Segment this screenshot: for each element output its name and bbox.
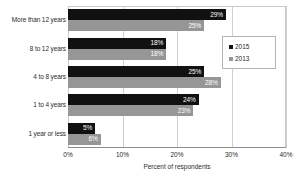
x-tick-label: 10% bbox=[116, 151, 129, 158]
x-axis-title: Percent of respondents bbox=[68, 163, 286, 170]
legend: 2015 2013 bbox=[222, 36, 276, 69]
legend-label-2015: 2015 bbox=[235, 44, 249, 51]
bar-value-label: 29% bbox=[210, 11, 223, 18]
x-axis-line bbox=[68, 147, 286, 148]
legend-item-2013[interactable]: 2013 bbox=[229, 53, 275, 65]
x-tick-label: 30% bbox=[225, 151, 238, 158]
bar-2013-2[interactable]: 18% bbox=[68, 49, 166, 60]
legend-label-2013: 2013 bbox=[235, 56, 249, 63]
category-label: 8 to 12 years bbox=[2, 45, 66, 52]
x-tick-label: 40% bbox=[279, 151, 292, 158]
category-label: More than 12 years bbox=[2, 16, 66, 23]
legend-swatch-icon-2015 bbox=[229, 45, 233, 49]
bar-value-label: 25% bbox=[189, 68, 202, 75]
category-label: 1 to 4 years bbox=[2, 101, 66, 108]
bar-2013-3[interactable]: 28% bbox=[68, 77, 221, 88]
bar-2015-2[interactable]: 18% bbox=[68, 38, 166, 49]
category-axis: More than 12 years8 to 12 years4 to 8 ye… bbox=[0, 6, 66, 148]
category-label: 1 year or less bbox=[2, 130, 66, 137]
plot-area: 29%25%18%18%25%28%24%23%5%6% bbox=[68, 6, 286, 148]
bar-2013-1[interactable]: 25% bbox=[68, 20, 204, 31]
bar-value-label: 18% bbox=[150, 40, 163, 47]
bar-row: 23% bbox=[68, 105, 286, 116]
bar-row: 6% bbox=[68, 134, 286, 145]
bar-value-label: 25% bbox=[189, 22, 202, 29]
bar-chart: More than 12 years8 to 12 years4 to 8 ye… bbox=[0, 0, 295, 177]
bar-row: 25% bbox=[68, 20, 286, 31]
legend-item-2015[interactable]: 2015 bbox=[229, 41, 275, 53]
bar-row: 5% bbox=[68, 123, 286, 134]
bar-2013-5[interactable]: 6% bbox=[68, 134, 101, 145]
bar-value-label: 24% bbox=[183, 97, 196, 104]
bar-row: 28% bbox=[68, 77, 286, 88]
bar-2015-1[interactable]: 29% bbox=[68, 9, 226, 20]
bar-value-label: 23% bbox=[178, 108, 191, 115]
x-tick-label: 20% bbox=[170, 151, 183, 158]
bar-2015-4[interactable]: 24% bbox=[68, 94, 199, 105]
bar-value-label: 5% bbox=[83, 125, 92, 132]
legend-swatch-icon-2013 bbox=[229, 57, 233, 61]
gridline bbox=[286, 6, 287, 148]
x-tick-label: 0% bbox=[63, 151, 72, 158]
bar-2013-4[interactable]: 23% bbox=[68, 105, 193, 116]
bar-value-label: 18% bbox=[150, 51, 163, 58]
bar-2015-5[interactable]: 5% bbox=[68, 123, 95, 134]
bar-2015-3[interactable]: 25% bbox=[68, 66, 204, 77]
bar-value-label: 6% bbox=[88, 136, 97, 143]
bar-row: 29% bbox=[68, 9, 286, 20]
bar-row: 24% bbox=[68, 94, 286, 105]
bar-value-label: 28% bbox=[205, 79, 218, 86]
category-label: 4 to 8 years bbox=[2, 73, 66, 80]
